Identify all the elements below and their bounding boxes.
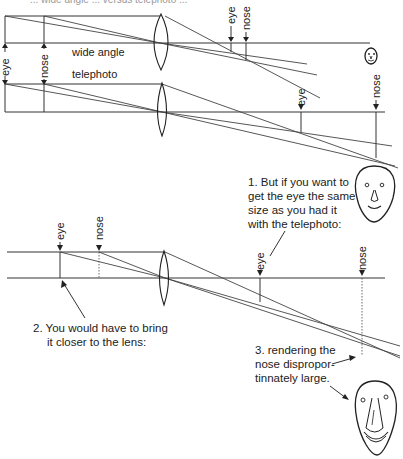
top-caption: ... wide angle ... versus telephoto ...	[30, 0, 187, 5]
label-telephoto: telephoto	[72, 68, 117, 80]
svg-text:eye: eye	[254, 252, 266, 270]
svg-text:nose: nose	[93, 216, 105, 240]
note-1-pointer	[270, 231, 285, 256]
svg-text:nose: nose	[38, 54, 50, 78]
normal-face-icon	[355, 166, 394, 222]
wide-angle-diagram	[5, 14, 370, 98]
distorted-face-icon	[355, 381, 396, 455]
svg-text:eye: eye	[225, 6, 237, 24]
wide-image-labels: eye nose	[225, 6, 252, 42]
label-wide-angle: wide angle	[71, 46, 125, 58]
lower-image-labels: eye nose	[254, 246, 368, 276]
note-2-pointer	[64, 284, 85, 318]
note-3: 3. rendering the nose dispropor- tinnate…	[255, 344, 336, 384]
small-face-icon	[365, 48, 377, 64]
svg-text:it closer to the lens:: it closer to the lens:	[47, 336, 146, 348]
lower-object-labels: eye nose	[54, 216, 105, 251]
svg-text:eye: eye	[295, 88, 307, 106]
svg-text:eye: eye	[0, 58, 11, 76]
upper-object-labels: eye nose	[0, 43, 50, 85]
lens-diagram: ... wide angle ... versus telephoto ... …	[0, 0, 403, 459]
svg-text:nose dispropor-: nose dispropor-	[255, 358, 335, 370]
svg-text:eye: eye	[54, 222, 66, 240]
note-1: 1. But if you want to get the eye the sa…	[247, 176, 355, 230]
note-2: 2. You would have to bring it closer to …	[33, 322, 168, 348]
telephoto-diagram	[5, 83, 398, 168]
svg-text:get the eye the same: get the eye the same	[248, 190, 355, 202]
svg-text:2. You would have to bring: 2. You would have to bring	[33, 322, 168, 334]
svg-text:nose: nose	[370, 74, 382, 98]
svg-text:tinnately large.: tinnately large.	[255, 372, 330, 384]
svg-text:size as you had it: size as you had it	[248, 204, 338, 216]
svg-text:with the telephoto:: with the telephoto:	[247, 218, 341, 230]
svg-text:nose: nose	[356, 246, 368, 270]
svg-text:nose: nose	[240, 6, 252, 30]
svg-text:1. But if you want to: 1. But if you want to	[248, 176, 349, 188]
svg-text:3. rendering the: 3. rendering the	[255, 344, 336, 356]
telephoto-lens	[158, 83, 167, 136]
